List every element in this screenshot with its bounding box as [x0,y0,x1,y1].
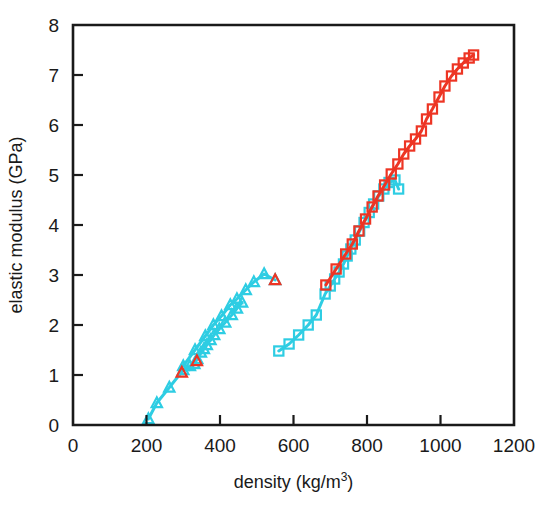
series-red-squares [321,50,478,289]
y-tick-label-1: 1 [48,365,59,386]
y-tick-label-6: 6 [48,115,59,136]
y-tick-label-0: 0 [48,415,59,436]
y-tick-label-4: 4 [48,215,59,236]
series-layer [143,50,478,423]
x-tick-label-600: 600 [278,435,310,456]
x-tick-label-1000: 1000 [419,435,461,456]
x-tick-label-200: 200 [131,435,163,456]
scatter-plot: 012345678020040060080010001200 density (… [0,0,559,515]
y-axis-title: elastic modulus (GPa) [6,136,26,313]
chart-figure: 012345678020040060080010001200 density (… [0,0,559,515]
y-tick-label-3: 3 [48,265,59,286]
y-tick-label-5: 5 [48,165,59,186]
axes-layer: 012345678020040060080010001200 [48,15,535,456]
x-tick-label-1200: 1200 [493,435,535,456]
plot-frame [73,25,514,425]
x-tick-label-0: 0 [68,435,79,456]
y-tick-label-2: 2 [48,315,59,336]
x-tick-label-400: 400 [204,435,236,456]
x-axis-title: density (kg/m3) [234,470,354,492]
x-tick-label-800: 800 [351,435,383,456]
y-tick-label-7: 7 [48,65,59,86]
y-tick-label-8: 8 [48,15,59,36]
